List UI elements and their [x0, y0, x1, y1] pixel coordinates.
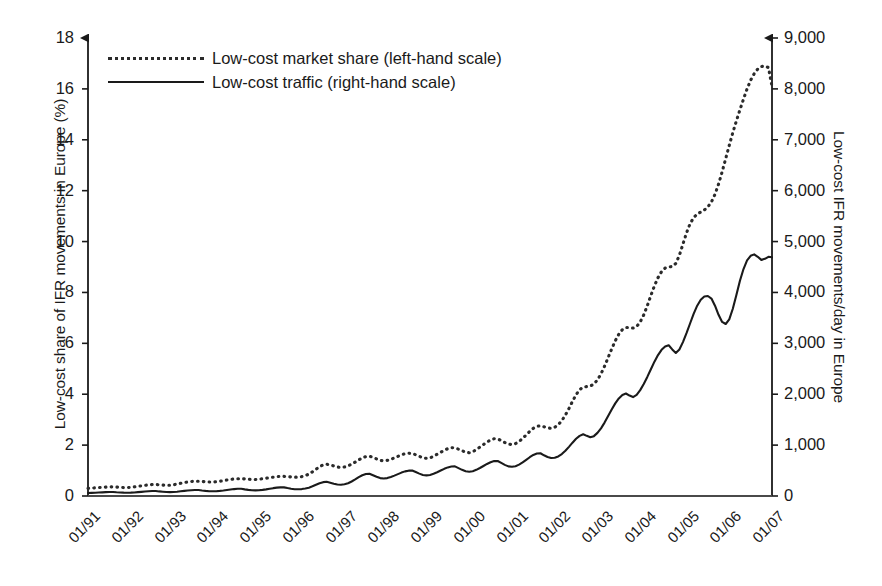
plot-area — [0, 0, 882, 586]
chart-figure: Low-cost share of IFR movements in Europ… — [0, 0, 882, 586]
y-axis-left-tick-label: 2 — [34, 436, 74, 453]
y-axis-right-tick-label: 7,000 — [784, 131, 854, 148]
y-axis-right-tick-label: 0 — [784, 487, 854, 504]
y-axis-left-tick-label: 8 — [34, 283, 74, 300]
y-axis-right-tick-label: 1,000 — [784, 436, 854, 453]
y-axis-right-tick-label: 9,000 — [784, 29, 854, 46]
y-axis-left-tick-label: 16 — [34, 80, 74, 97]
y-axis-right-tick-label: 6,000 — [784, 182, 854, 199]
y-axis-right-tick-label: 5,000 — [784, 233, 854, 250]
y-axis-left-tick-label: 10 — [34, 233, 74, 250]
y-axis-left-tick-label: 0 — [34, 487, 74, 504]
y-axis-left-tick-label: 18 — [34, 29, 74, 46]
y-axis-right-tick-label: 3,000 — [784, 334, 854, 351]
y-axis-right-tick-label: 8,000 — [784, 80, 854, 97]
y-axis-right-tick-label: 2,000 — [784, 385, 854, 402]
series-line-market-share — [88, 66, 772, 488]
y-axis-left-tick-label: 14 — [34, 131, 74, 148]
y-axis-right-tick-label: 4,000 — [784, 283, 854, 300]
y-axis-left-tick-label: 6 — [34, 334, 74, 351]
tick-marks — [82, 38, 778, 496]
y-axis-left-tick-label: 12 — [34, 182, 74, 199]
y-axis-left-tick-label: 4 — [34, 385, 74, 402]
